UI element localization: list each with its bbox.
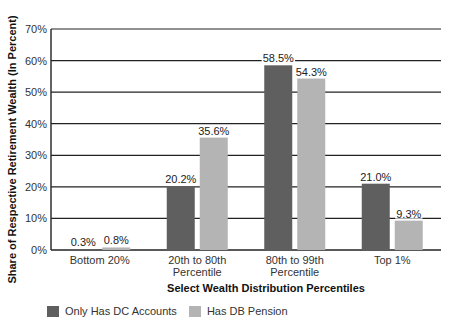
legend-item-db: Has DB Pension [189,305,288,317]
bar [362,184,390,250]
bar-value-label: 0.3% [71,236,96,248]
y-tick-label: 40% [25,118,47,130]
bar-chart: 0%10%20%30%40%50%60%70%0.3%0.8%Bottom 20… [0,0,449,328]
x-category-label: Percentile [173,266,222,278]
legend-swatch-dc [47,306,59,317]
y-axis-title: Share of Respective Retirement Wealth (I… [6,15,18,283]
y-tick-label: 30% [25,149,47,161]
bar [167,186,195,250]
bar-value-label: 9.3% [396,208,421,220]
y-tick-label: 0% [31,244,47,256]
y-tick-label: 20% [25,181,47,193]
legend-swatch-db [189,306,201,317]
bar-value-label: 35.6% [198,125,229,137]
bar-value-label: 58.5% [263,52,294,64]
bar-value-label: 0.8% [104,234,129,246]
legend-item-dc: Only Has DC Accounts [47,305,177,317]
bar [297,79,325,250]
x-category-label: Bottom 20% [70,254,130,266]
legend-label-dc: Only Has DC Accounts [65,305,177,317]
bar [200,138,228,250]
bar [102,247,130,250]
bar-value-label: 21.0% [360,171,391,183]
y-tick-label: 60% [25,55,47,67]
x-category-label: 20th to 80th [168,254,226,266]
bar [69,249,97,250]
x-category-label: Percentile [270,266,319,278]
legend: Only Has DC Accounts Has DB Pension [47,305,300,317]
y-tick-label: 70% [25,23,47,35]
bar [395,221,423,250]
x-category-label: 80th to 99th [266,254,324,266]
legend-label-db: Has DB Pension [207,305,288,317]
bar-value-label: 54.3% [296,66,327,78]
bar [264,65,292,250]
x-axis-title: Select Wealth Distribution Percentiles [167,282,365,294]
y-tick-label: 10% [25,212,47,224]
x-category-label: Top 1% [374,254,411,266]
y-tick-label: 50% [25,86,47,98]
bar-value-label: 20.2% [165,173,196,185]
